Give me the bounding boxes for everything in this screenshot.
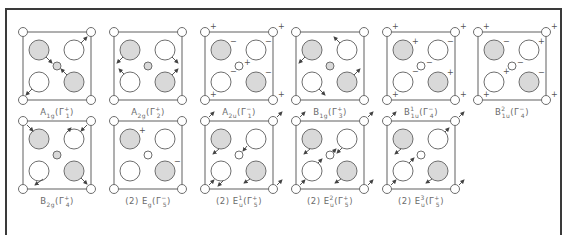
corner-atom: [360, 96, 369, 105]
label-close: ): [525, 107, 529, 117]
displacement-arrow: [426, 179, 432, 183]
open-atom: [246, 40, 266, 60]
center-atom: [235, 151, 243, 159]
label-gamma: (Γ: [419, 107, 428, 117]
displacement-sign: +: [551, 90, 558, 99]
label-gamma: (Γ: [55, 107, 64, 117]
shaded-atom: [246, 161, 266, 181]
phonon-mode-figure: +++++−−−−++++−+−−+++++−−++−+− A1g(Γ+1)A2…: [0, 0, 569, 235]
label-close: ): [343, 107, 347, 117]
displacement-arrow: [459, 180, 464, 185]
displacement-sign: +: [412, 37, 419, 46]
displacement-sign: −: [174, 157, 181, 166]
shaded-atom: [120, 129, 140, 149]
displacement-arrow: [277, 180, 282, 185]
label-close: ): [161, 107, 165, 117]
displacement-sign: +: [278, 22, 285, 31]
displacement-arrow: [318, 159, 322, 163]
corner-atom: [110, 28, 119, 37]
corner-atom: [110, 96, 119, 105]
label-subscript: 2g: [46, 201, 55, 208]
mode-cell-Eu2: [292, 112, 374, 194]
mode-label-A2g: A2g(Γ+2): [103, 105, 194, 119]
displacement-sign: −: [517, 58, 524, 67]
displacement-arrow: [81, 178, 87, 184]
open-atom: [484, 72, 504, 92]
label-subscript: 1u: [502, 112, 511, 119]
displacement-sign: −: [538, 68, 545, 77]
mode-cell-A1g: [19, 28, 96, 105]
displacement-sign: +: [392, 90, 399, 99]
label-subscript: 1g: [46, 112, 55, 119]
open-atom: [120, 72, 140, 92]
displacement-arrow: [172, 69, 178, 75]
displacement-arrow: [117, 57, 123, 63]
displacement-sign: +: [278, 90, 285, 99]
corner-atom: [292, 28, 301, 37]
mode-label-Eu1: (2) E1u(Γ+5): [194, 194, 285, 208]
shaded-atom: [337, 161, 357, 181]
label-symbol: E: [415, 196, 421, 206]
mode-cell-Eu3: [383, 112, 465, 194]
mode-cell-A2g: [110, 28, 187, 105]
corner-atom: [542, 28, 551, 37]
displacement-sign: +: [460, 90, 467, 99]
displacement-sign: +: [392, 22, 399, 31]
open-atom: [428, 40, 448, 60]
label-symbol: E: [233, 196, 239, 206]
label-prefix: (2): [398, 196, 415, 206]
displacement-arrow: [119, 69, 124, 74]
open-atom: [246, 129, 266, 149]
displacement-arrow: [304, 149, 310, 154]
mode-label-B1u2: B21u(Γ−4): [467, 105, 558, 119]
shaded-atom: [428, 161, 448, 181]
corner-atom: [201, 28, 210, 37]
displacement-arrow: [337, 148, 342, 153]
displacement-arrow: [391, 180, 396, 185]
mode-label-Eu3: (2) E3u(Γ+5): [376, 194, 467, 208]
shaded-atom: [211, 129, 231, 149]
corner-atom: [269, 185, 278, 194]
center-atom: [53, 62, 61, 70]
displacement-arrow: [368, 180, 373, 185]
corner-atom: [201, 96, 210, 105]
corner-atom: [383, 185, 392, 194]
corner-atom: [87, 28, 96, 37]
displacement-sign: +: [483, 90, 490, 99]
corner-atom: [292, 185, 301, 194]
mode-cell-Eu1: [201, 112, 283, 194]
open-atom: [211, 72, 231, 92]
displacement-sign: +: [503, 67, 510, 76]
displacement-arrow: [26, 89, 32, 95]
label-gamma: (Γ: [146, 107, 155, 117]
displacement-arrow: [333, 149, 336, 152]
label-gamma: (Γ: [328, 107, 337, 117]
corner-atom: [542, 96, 551, 105]
mode-label-Eg: (2) Eg(Γ−5): [103, 194, 194, 208]
label-symbol: E: [324, 196, 330, 206]
mode-cell-B1u2: ++++−−++−: [474, 22, 558, 105]
shaded-atom: [484, 40, 504, 60]
displacement-sign: +: [244, 58, 251, 67]
displacement-arrow: [319, 89, 325, 95]
displacement-arrow: [209, 180, 214, 185]
mode-cell-B2g: [19, 117, 96, 194]
displacement-sign: −: [426, 58, 433, 67]
mode-cell-B1g: [292, 28, 369, 105]
open-atom: [120, 161, 140, 181]
corner-atom: [292, 96, 301, 105]
label-gamma: (Γ: [55, 196, 64, 206]
corner-atom: [178, 185, 187, 194]
label-close: ): [70, 107, 74, 117]
label-close: ): [349, 196, 353, 206]
corner-atom: [19, 185, 28, 194]
center-atom: [326, 62, 334, 70]
displacement-sign: +: [210, 90, 217, 99]
open-atom: [393, 72, 413, 92]
displacement-arrow: [172, 57, 178, 63]
displacement-sign: −: [265, 37, 272, 46]
displacement-sign: −: [265, 68, 272, 77]
mode-label-B2g: B2g(Γ+4): [12, 194, 103, 208]
displacement-sign: −: [447, 37, 454, 46]
label-close: ): [434, 107, 438, 117]
